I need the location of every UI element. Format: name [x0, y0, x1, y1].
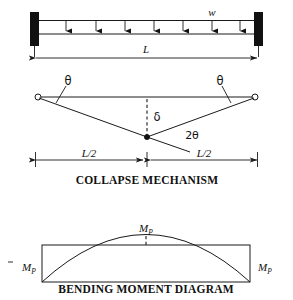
beam-diagram: w L	[30, 6, 263, 58]
mechanism-limb-right	[147, 98, 254, 137]
bending-moment-caption: BENDING MOMENT DIAGRAM	[58, 283, 233, 295]
figure-canvas: w L θ	[0, 0, 293, 300]
half-span-label-left: L/2	[81, 147, 97, 159]
bmd-baseline-box	[42, 245, 250, 282]
support-right-block	[254, 12, 263, 46]
angle-label-right: θ	[216, 74, 223, 88]
distributed-load-arrows	[66, 21, 240, 31]
angle-label-left: θ	[64, 74, 71, 88]
hinge-center	[144, 134, 149, 139]
bending-moment-diagram: MP MP MP BENDING MOMENT DIAGRAM	[8, 222, 272, 295]
collapse-mechanism-diagram: θ θ δ 2θ L/2 L/2 COLLAPSE MECHANISM	[35, 74, 258, 186]
support-left-block	[30, 12, 39, 46]
deflection-label-delta: δ	[153, 110, 160, 124]
moment-label-right: MP	[257, 261, 272, 276]
span-label-L: L	[142, 43, 149, 55]
angle-tick-left	[56, 86, 66, 103]
angle-tick-right	[222, 86, 231, 103]
hinge-left	[35, 94, 41, 100]
mechanism-limb-left	[39, 98, 147, 137]
engineering-figure: w L θ	[0, 0, 293, 300]
collapse-mechanism-caption: COLLAPSE MECHANISM	[76, 174, 219, 186]
moment-label-top-sub: P	[147, 228, 153, 237]
bmd-parabola	[42, 235, 250, 283]
hinge-right	[252, 94, 258, 100]
half-span-label-right: L/2	[196, 147, 212, 159]
moment-label-right-sub: P	[266, 267, 272, 276]
mechanism-extension-line	[147, 137, 190, 152]
angle-label-center: 2θ	[185, 129, 199, 142]
moment-label-left: MP	[21, 261, 36, 276]
load-label-w: w	[208, 6, 216, 18]
moment-label-left-sub: P	[30, 267, 36, 276]
